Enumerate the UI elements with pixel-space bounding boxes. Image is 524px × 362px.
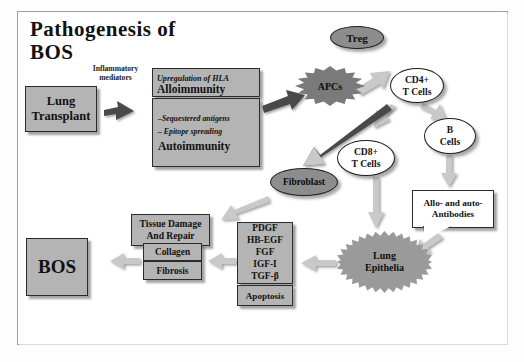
node-growth-factors[interactable]: PDGF HB-EGF FGF IGF-I TGF-β <box>237 222 293 284</box>
node-lung-epithelia[interactable]: Lung Epithelia <box>337 231 432 293</box>
antibodies-line-1: Allo- and auto- <box>423 198 482 210</box>
title-line-2: BOS <box>30 41 280 64</box>
inflammatory-mediators-label: Inflammatory mediators <box>78 64 153 83</box>
node-lung-transplant[interactable]: Lung Transplant <box>25 86 97 132</box>
cd4-line-1: CD4+ <box>405 74 429 86</box>
cd8-line-2: T Cells <box>352 158 381 170</box>
fibrosis-label: Fibrosis <box>157 266 189 276</box>
autoimmunity-bullet-2: – Epitope spreading <box>158 127 254 136</box>
node-fibroblast[interactable]: Fibroblast <box>270 168 338 196</box>
apoptosis-label: Apoptosis <box>246 291 284 301</box>
diagram-canvas: Pathogenesis of BOS Inflammatory mediato… <box>0 0 524 362</box>
node-apcs[interactable]: APCs <box>295 66 365 106</box>
node-antibodies[interactable]: Allo- and auto- Antibodies <box>412 190 494 228</box>
inflammatory-line-2: mediators <box>78 73 153 82</box>
antibodies-line-2: Antibodies <box>432 209 474 221</box>
node-alloimmunity[interactable]: Upregulation of HLA Alloimmunity <box>152 68 260 97</box>
page-title: Pathogenesis of BOS <box>30 18 280 63</box>
alloimmunity-title: Alloimmunity <box>157 83 255 95</box>
autoimmunity-bullet-1: –Sequestered antigens <box>158 114 254 123</box>
bos-label: BOS <box>38 256 76 278</box>
tissue-damage-line-2: And Repair <box>146 230 194 242</box>
node-tissue-damage[interactable]: Tissue Damage And Repair <box>131 214 210 246</box>
lung-epithelia-line-1: Lung <box>365 250 404 262</box>
node-cd8-t-cells[interactable]: CD8+ T Cells <box>337 140 395 176</box>
growth-factor-item: IGF-I <box>253 259 276 271</box>
fibroblast-label: Fibroblast <box>283 177 325 187</box>
growth-factor-item: HB-EGF <box>247 235 283 247</box>
node-cd4-t-cells[interactable]: CD4+ T Cells <box>390 68 444 103</box>
bcells-line-1: B <box>447 124 453 136</box>
lung-epithelia-label: Lung Epithelia <box>365 250 404 274</box>
node-bos[interactable]: BOS <box>26 238 88 296</box>
tissue-damage-line-1: Tissue Damage <box>140 218 202 230</box>
inflammatory-line-1: Inflammatory <box>78 64 153 73</box>
node-treg[interactable]: Treg <box>330 26 384 49</box>
growth-factor-item: PDGF <box>252 223 278 235</box>
cd4-line-2: T Cells <box>403 86 432 98</box>
node-b-cells[interactable]: B Cells <box>424 118 476 154</box>
node-autoimmunity[interactable]: –Sequestered antigens – Epitope spreadin… <box>152 98 260 167</box>
growth-factor-item: FGF <box>256 247 275 259</box>
node-collagen[interactable]: Collagen <box>143 243 202 261</box>
alloimmunity-subtitle: Upregulation of HLA <box>157 74 255 83</box>
collagen-label: Collagen <box>155 247 190 257</box>
cd8-line-1: CD8+ <box>354 146 378 158</box>
node-apoptosis[interactable]: Apoptosis <box>237 285 293 306</box>
growth-factor-item: TGF-β <box>251 271 278 283</box>
treg-label: Treg <box>346 32 368 44</box>
node-fibrosis[interactable]: Fibrosis <box>143 261 202 280</box>
apcs-label: APCs <box>318 81 342 92</box>
autoimmunity-title: Autoimmunity <box>158 140 254 152</box>
lung-epithelia-line-2: Epithelia <box>365 262 404 274</box>
lung-transplant-line-1: Lung <box>47 94 76 109</box>
bcells-line-2: Cells <box>440 136 460 148</box>
lung-transplant-line-2: Transplant <box>32 109 91 124</box>
title-line-1: Pathogenesis of <box>30 18 280 41</box>
